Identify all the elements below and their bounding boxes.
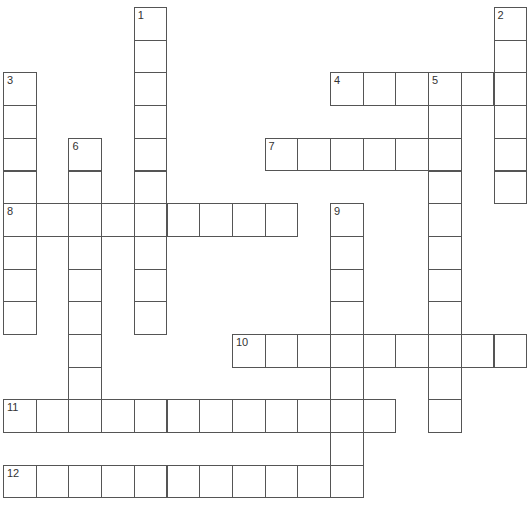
crossword-cell[interactable] bbox=[330, 334, 364, 368]
crossword-cell[interactable] bbox=[428, 203, 462, 237]
crossword-cell[interactable] bbox=[330, 301, 364, 335]
crossword-cell[interactable] bbox=[265, 334, 299, 368]
crossword-cell[interactable] bbox=[428, 236, 462, 270]
crossword-cell[interactable]: 7 bbox=[265, 138, 299, 172]
crossword-cell[interactable] bbox=[232, 203, 266, 237]
crossword-cell[interactable] bbox=[134, 171, 168, 205]
crossword-cell[interactable] bbox=[134, 72, 168, 106]
crossword-cell[interactable] bbox=[395, 72, 429, 106]
crossword-cell[interactable] bbox=[134, 465, 168, 499]
crossword-cell[interactable] bbox=[68, 236, 102, 270]
crossword-cell[interactable] bbox=[68, 171, 102, 205]
crossword-cell[interactable] bbox=[461, 334, 495, 368]
crossword-cell[interactable] bbox=[330, 269, 364, 303]
crossword-cell[interactable] bbox=[494, 171, 527, 205]
crossword-cell[interactable] bbox=[265, 399, 299, 433]
crossword-cell[interactable] bbox=[134, 236, 168, 270]
crossword-cell[interactable] bbox=[68, 465, 102, 499]
crossword-cell[interactable] bbox=[3, 269, 37, 303]
crossword-cell[interactable] bbox=[428, 171, 462, 205]
crossword-cell[interactable]: 6 bbox=[68, 138, 102, 172]
crossword-cell[interactable] bbox=[494, 40, 527, 74]
crossword-cell[interactable]: 2 bbox=[494, 7, 527, 41]
crossword-cell[interactable] bbox=[3, 171, 37, 205]
clue-number: 11 bbox=[7, 401, 18, 413]
crossword-cell[interactable] bbox=[68, 269, 102, 303]
crossword-cell[interactable]: 10 bbox=[232, 334, 266, 368]
crossword-cell[interactable] bbox=[232, 465, 266, 499]
crossword-cell[interactable] bbox=[297, 399, 331, 433]
crossword-cell[interactable]: 9 bbox=[330, 203, 364, 237]
crossword-cell[interactable]: 11 bbox=[3, 399, 37, 433]
crossword-cell[interactable] bbox=[68, 399, 102, 433]
crossword-cell[interactable] bbox=[36, 465, 70, 499]
crossword-cell[interactable] bbox=[395, 334, 429, 368]
crossword-cell[interactable] bbox=[330, 236, 364, 270]
crossword-cell[interactable] bbox=[428, 105, 462, 139]
crossword-cell[interactable] bbox=[167, 399, 201, 433]
crossword-cell[interactable] bbox=[134, 399, 168, 433]
crossword-cell[interactable] bbox=[428, 367, 462, 401]
crossword-cell[interactable] bbox=[101, 399, 135, 433]
crossword-cell[interactable] bbox=[68, 203, 102, 237]
crossword-cell[interactable] bbox=[330, 399, 364, 433]
crossword-cell[interactable] bbox=[134, 138, 168, 172]
crossword-cell[interactable] bbox=[134, 40, 168, 74]
crossword-cell[interactable] bbox=[134, 301, 168, 335]
crossword-cell[interactable] bbox=[461, 72, 495, 106]
crossword-cell[interactable] bbox=[68, 367, 102, 401]
crossword-cell[interactable] bbox=[330, 367, 364, 401]
crossword-cell[interactable] bbox=[101, 203, 135, 237]
crossword-cell[interactable] bbox=[68, 334, 102, 368]
crossword-cell[interactable] bbox=[36, 399, 70, 433]
crossword-cell[interactable] bbox=[395, 138, 429, 172]
clue-number: 1 bbox=[138, 9, 144, 21]
crossword-cell[interactable] bbox=[134, 203, 168, 237]
crossword-cell[interactable] bbox=[199, 399, 233, 433]
crossword-cell[interactable] bbox=[363, 399, 397, 433]
clue-number: 12 bbox=[7, 467, 19, 479]
crossword-cell[interactable]: 8 bbox=[3, 203, 37, 237]
crossword-cell[interactable] bbox=[265, 203, 299, 237]
crossword-cell[interactable] bbox=[3, 105, 37, 139]
clue-number: 6 bbox=[72, 140, 78, 152]
crossword-cell[interactable] bbox=[36, 203, 70, 237]
crossword-cell[interactable] bbox=[330, 138, 364, 172]
crossword-cell[interactable] bbox=[199, 203, 233, 237]
crossword-cell[interactable]: 5 bbox=[428, 72, 462, 106]
crossword-cell[interactable] bbox=[265, 465, 299, 499]
crossword-cell[interactable] bbox=[297, 465, 331, 499]
crossword-cell[interactable] bbox=[101, 465, 135, 499]
crossword-cell[interactable] bbox=[134, 269, 168, 303]
crossword-cell[interactable]: 4 bbox=[330, 72, 364, 106]
crossword-cell[interactable]: 12 bbox=[3, 465, 37, 499]
crossword-cell[interactable] bbox=[167, 203, 201, 237]
crossword-cell[interactable] bbox=[428, 399, 462, 433]
crossword-cell[interactable] bbox=[428, 138, 462, 172]
crossword-cell[interactable] bbox=[3, 236, 37, 270]
crossword-cell[interactable] bbox=[494, 334, 527, 368]
crossword-cell[interactable] bbox=[330, 432, 364, 466]
crossword-cell[interactable] bbox=[199, 465, 233, 499]
crossword-cell[interactable] bbox=[428, 334, 462, 368]
crossword-cell[interactable] bbox=[3, 138, 37, 172]
crossword-cell[interactable] bbox=[363, 334, 397, 368]
crossword-cell[interactable] bbox=[363, 138, 397, 172]
crossword-cell[interactable] bbox=[494, 105, 527, 139]
crossword-cell[interactable] bbox=[494, 138, 527, 172]
crossword-cell[interactable] bbox=[428, 301, 462, 335]
crossword-cell[interactable] bbox=[134, 105, 168, 139]
crossword-cell[interactable] bbox=[330, 465, 364, 499]
crossword-cell[interactable] bbox=[167, 465, 201, 499]
crossword-cell[interactable] bbox=[494, 72, 527, 106]
crossword-cell[interactable] bbox=[297, 138, 331, 172]
crossword-cell[interactable] bbox=[297, 334, 331, 368]
crossword-cell[interactable] bbox=[68, 301, 102, 335]
crossword-cell[interactable] bbox=[428, 269, 462, 303]
crossword-cell[interactable]: 1 bbox=[134, 7, 168, 41]
crossword-cell[interactable] bbox=[363, 72, 397, 106]
crossword-cell[interactable] bbox=[232, 399, 266, 433]
crossword-cell[interactable]: 3 bbox=[3, 72, 37, 106]
crossword-cell[interactable] bbox=[3, 301, 37, 335]
